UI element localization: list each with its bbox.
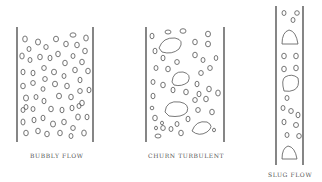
churn-turbulent-label: CHURN TURBULENT bbox=[148, 152, 224, 159]
taylor-bubble bbox=[283, 75, 299, 91]
slug-flow-label: SLUG FLOW bbox=[268, 171, 312, 178]
slug-bubbles bbox=[281, 11, 301, 160]
taylor-bubble bbox=[282, 146, 297, 159]
taylor-bubble bbox=[282, 30, 298, 44]
bubbly-bubbles bbox=[20, 33, 91, 139]
churn-bubbles bbox=[150, 29, 220, 138]
bubbly-flow-label: BUBBLY FLOW bbox=[30, 152, 84, 159]
